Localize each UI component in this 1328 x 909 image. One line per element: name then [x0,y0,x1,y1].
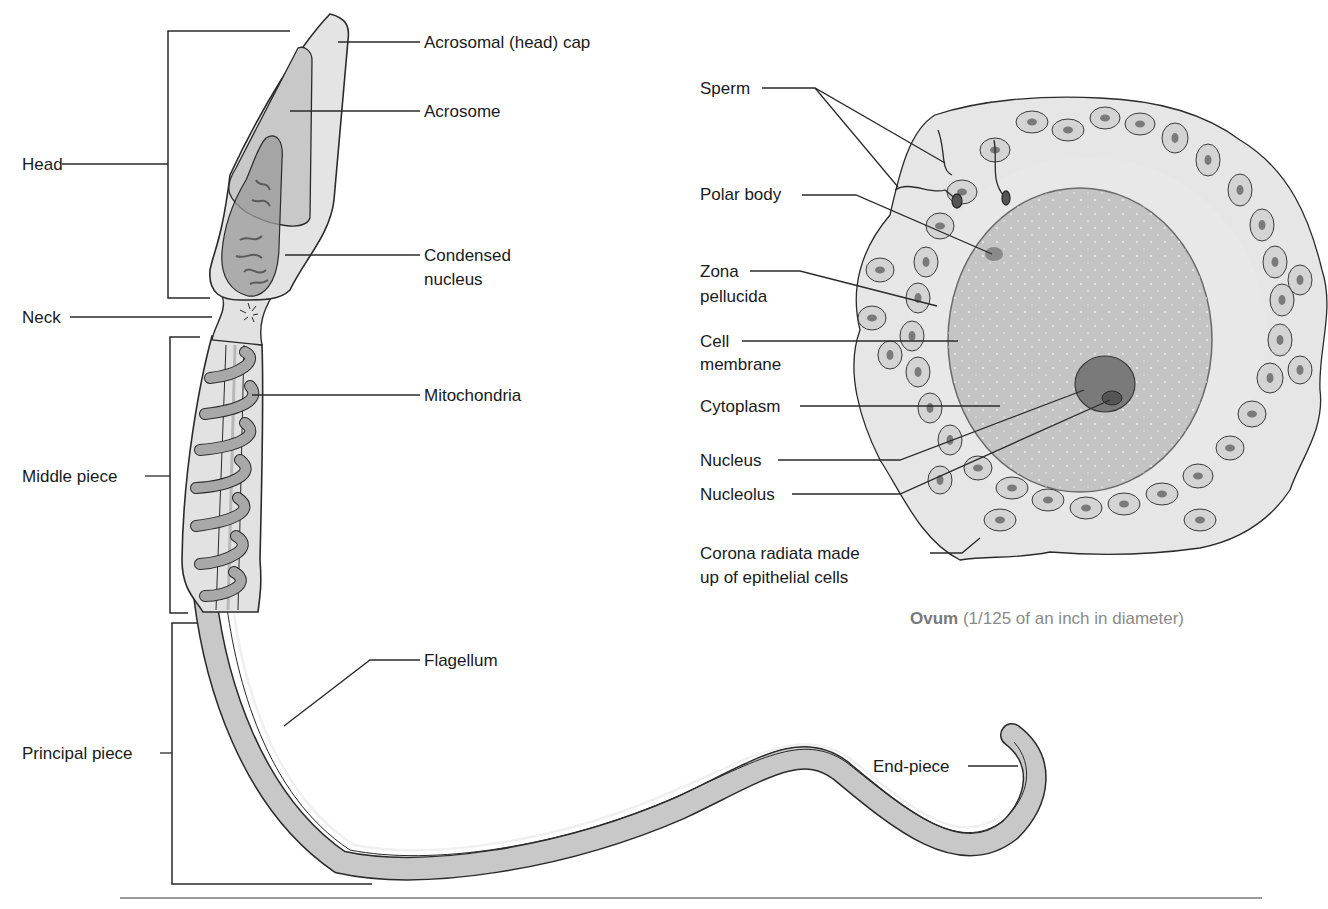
label-corona-1: Corona radiata made [700,543,860,564]
label-sperm: Sperm [700,78,750,99]
label-principal-piece: Principal piece [22,743,133,764]
label-zona-1: Zona [700,261,739,282]
label-middle-piece: Middle piece [22,466,117,487]
label-nucleolus: Nucleolus [700,484,775,505]
label-neck: Neck [22,307,61,328]
label-mitochondria: Mitochondria [424,385,521,406]
label-cell-membrane-1: Cell [700,331,729,352]
ovum-caption-bold: Ovum [910,609,958,628]
label-condensed-nucleus-2: nucleus [424,269,483,290]
middle-piece-shape [182,336,263,612]
label-polar-body: Polar body [700,184,781,205]
polar-body-shape [985,247,1003,261]
label-flagellum: Flagellum [424,650,498,671]
label-acrosome: Acrosome [424,101,501,122]
sperm-head [210,14,349,300]
label-cell-membrane-2: membrane [700,354,781,375]
label-nucleus: Nucleus [700,450,761,471]
neck-shape [212,296,272,345]
label-zona-2: pellucida [700,286,767,307]
sperm-ovum-diagram [0,0,1328,909]
label-acrosomal-cap: Acrosomal (head) cap [424,32,590,53]
label-condensed-nucleus-1: Condensed [424,245,511,266]
ovum-caption-rest: (1/125 of an inch in diameter) [958,609,1184,628]
flagellum-shape [205,596,1035,868]
nucleus-shape [1075,356,1135,412]
label-head: Head [22,154,63,175]
ovum-illustration [742,88,1327,560]
ovum-caption: Ovum (1/125 of an inch in diameter) [910,609,1184,629]
label-end-piece: End-piece [873,756,950,777]
label-cytoplasm: Cytoplasm [700,396,780,417]
label-corona-2: up of epithelial cells [700,567,848,588]
